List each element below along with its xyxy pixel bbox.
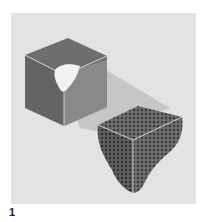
figure-number-label: 1 (9, 206, 15, 218)
cube-magnification-illustration (0, 0, 210, 222)
